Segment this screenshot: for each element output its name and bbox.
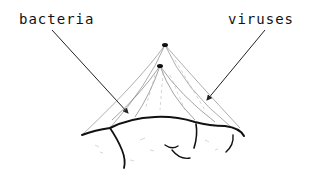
inner-cone <box>112 66 215 122</box>
label-viruses: viruses <box>228 12 294 26</box>
inner-peak <box>157 64 163 68</box>
diagram-canvas: bacteria viruses <box>0 0 313 179</box>
ground-surface <box>82 117 244 168</box>
viruses-pointer-arrow <box>207 30 265 100</box>
outer-cone <box>82 45 240 135</box>
label-bacteria: bacteria <box>19 12 94 26</box>
ground-texture <box>95 138 218 161</box>
outer-peak <box>162 43 168 47</box>
